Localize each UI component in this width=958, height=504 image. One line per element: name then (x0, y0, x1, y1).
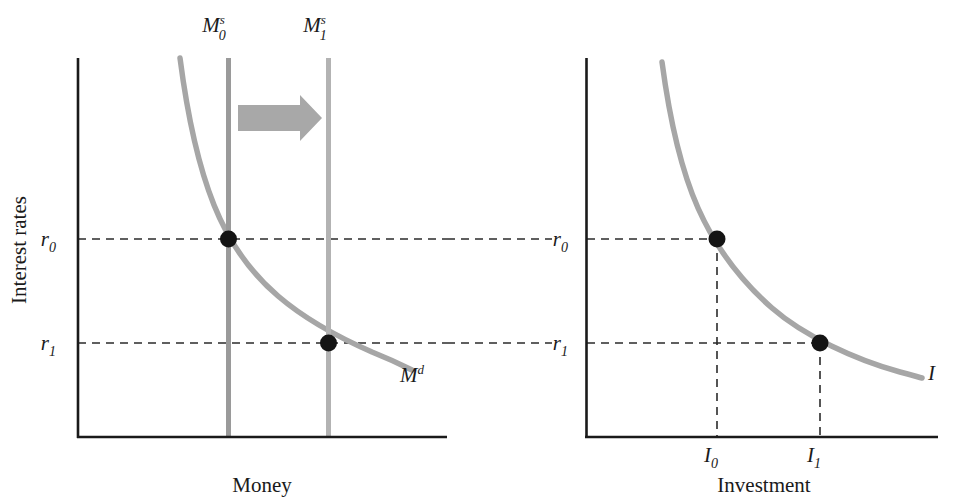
ms1-subscript: 1 (320, 28, 327, 43)
money-demand-label: Md (399, 362, 425, 387)
right-r1-subscript: 1 (561, 344, 568, 359)
i0-tick-label: I0 (703, 443, 718, 471)
money-supply-label-1: Ms1 (302, 12, 327, 43)
investment-point-0 (709, 231, 726, 248)
right-r1-tick-label: r1 (553, 331, 568, 359)
money-axis-title: Money (232, 473, 292, 497)
money-supply-shift-arrow (238, 95, 322, 141)
money-equilibrium-dot-1 (320, 335, 337, 352)
money-demand-curve (180, 58, 412, 370)
left-r1-subscript: 1 (49, 344, 56, 359)
md-superscript: d (418, 362, 425, 377)
left-r0-tick-label: r0 (41, 227, 56, 255)
ms0-subscript: 0 (219, 28, 226, 43)
shared-level-lines (78, 239, 820, 437)
ms0-superscript: s (220, 12, 225, 27)
investment-curve-label: I (927, 361, 936, 385)
economics-figure: Ms0 Ms1 Md r0 r1 Interest rates Money (0, 0, 958, 504)
investment-point-1 (812, 335, 829, 352)
money-supply-label-0: Ms0 (201, 12, 226, 43)
md-base: M (399, 363, 419, 387)
right-r0-tick-label: r0 (553, 227, 568, 255)
investment-demand-panel: I r0 r1 I0 I1 Investment (553, 58, 938, 497)
money-market-panel: Ms0 Ms1 Md r0 r1 Interest rates Money (7, 12, 447, 497)
left-r1-tick-label: r1 (41, 331, 56, 359)
right-r0-subscript: 0 (561, 240, 568, 255)
interest-rates-axis-title: Interest rates (7, 196, 31, 304)
money-equilibrium-dot-0 (220, 231, 237, 248)
i1-tick-label: I1 (806, 443, 821, 471)
investment-demand-curve (662, 62, 922, 378)
left-r0-subscript: 0 (49, 240, 56, 255)
i0-subscript: 0 (711, 456, 718, 471)
ms1-superscript: s (321, 12, 326, 27)
i1-subscript: 1 (814, 456, 821, 471)
investment-axis-title: Investment (717, 473, 810, 497)
